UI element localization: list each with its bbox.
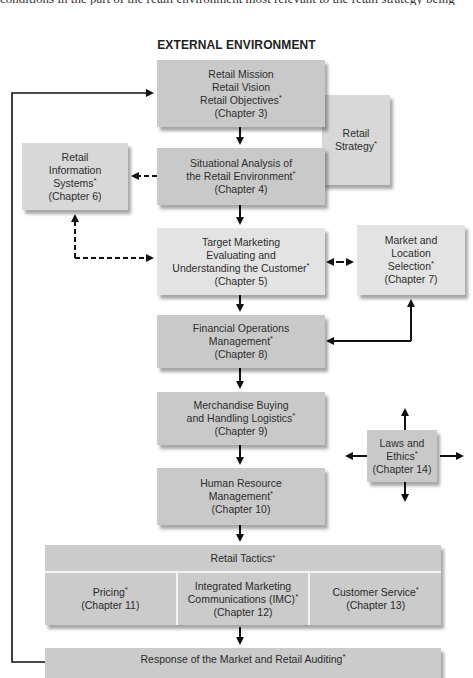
box-target-marketing: Target Marketing Evaluating and Understa… [157, 228, 325, 295]
box-retail-information-systems: Retail Information Systems* (Chapter 6) [22, 143, 128, 210]
box-market-location-selection: Market and Location Selection* (Chapter … [357, 225, 465, 295]
box-retail-strategy: Retail Strategy* [322, 95, 390, 185]
box-response-retail-auditing: Response of the Market and Retail Auditi… [45, 648, 441, 678]
box-laws-ethics: Laws and Ethics* (Chapter 14) [367, 430, 437, 482]
box-human-resource: Human Resource Management* (Chapter 10) [157, 468, 325, 525]
tactic-customer-service: Customer Service* (Chapter 13) [308, 573, 441, 625]
retail-tactics-header: Retail Tactics* [45, 545, 441, 573]
box-financial-operations: Financial Operations Management* (Chapte… [157, 315, 325, 368]
box-retail-tactics: Retail Tactics* Pricing* (Chapter 11) In… [45, 545, 441, 625]
box-merchandise-buying: Merchandise Buying and Handling Logistic… [157, 392, 325, 445]
tactic-imc: Integrated Marketing Communications (IMC… [176, 573, 309, 625]
tactic-pricing: Pricing* (Chapter 11) [45, 573, 176, 625]
box-situational-analysis: Situational Analysis of the Retail Envir… [157, 148, 325, 205]
box-retail-mission: Retail Mission Retail Vision Retail Obje… [157, 60, 325, 127]
